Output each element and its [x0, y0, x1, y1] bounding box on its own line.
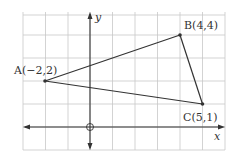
x-axis-right-arrow-icon: [218, 125, 225, 130]
coordinate-plane-figure: x y A(−2,2) B(4,4) C(5,1): [0, 0, 235, 160]
y-axis-label: y: [94, 11, 102, 24]
point-c-label: C(5,1): [183, 111, 218, 124]
point-b-dot: [178, 33, 182, 37]
x-axis-label: x: [214, 130, 221, 143]
point-b-label: B(4,4): [184, 19, 218, 32]
point-a-dot: [43, 79, 47, 83]
segment-ca: [45, 81, 203, 104]
y-axis-up-arrow-icon: [88, 12, 93, 19]
segment-bc: [180, 35, 203, 104]
y-axis-down-arrow-icon: [88, 143, 93, 150]
x-axis-left-arrow-icon: [23, 125, 30, 130]
point-a-label: A(−2,2): [13, 64, 57, 77]
point-c-dot: [201, 102, 205, 106]
